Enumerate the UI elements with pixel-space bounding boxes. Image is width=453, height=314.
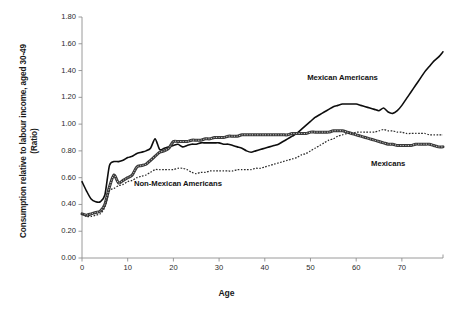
- y-tick-label: 1.00: [44, 120, 76, 128]
- series-mexicans: [82, 131, 443, 215]
- x-tick-label: 60: [341, 263, 371, 272]
- y-tick-label: 0.80: [44, 147, 76, 155]
- y-tick-label: 0.20: [44, 227, 76, 235]
- x-tick-label: 0: [67, 263, 97, 272]
- series-lines: [82, 52, 443, 217]
- x-tick-label: 70: [387, 263, 417, 272]
- annotation-mexicans: Mexicans: [371, 158, 405, 167]
- y-tick-label: 1.20: [44, 93, 76, 101]
- y-tick-label: 1.40: [44, 67, 76, 75]
- series-non-mexican-americans: [82, 129, 443, 216]
- chart-figure: Consumption relative to labour income, a…: [0, 0, 453, 314]
- x-axis-title: Age: [0, 288, 453, 298]
- y-tick-label: 0.60: [44, 174, 76, 182]
- x-tick-label: 10: [113, 263, 143, 272]
- x-tick-label: 50: [295, 263, 325, 272]
- y-axis-title-line1: Consumption relative to labour income, a…: [18, 16, 29, 266]
- y-tick-label: 1.60: [44, 40, 76, 48]
- y-tick-label: 0.00: [44, 254, 76, 262]
- y-tick-label: 0.40: [44, 200, 76, 208]
- axis-lines: [79, 17, 444, 262]
- y-tick-label: 1.80: [44, 13, 76, 21]
- annotation-mexican-americans: Mexican Americans: [307, 73, 378, 82]
- y-axis-title-line2: (Ratio): [29, 16, 40, 266]
- annotation-non-mexican-americans: Non-Mexican Americans: [134, 179, 222, 188]
- x-tick-label: 20: [158, 263, 188, 272]
- y-axis-title: Consumption relative to labour income, a…: [18, 16, 40, 266]
- x-tick-label: 30: [204, 263, 234, 272]
- x-tick-label: 40: [250, 263, 280, 272]
